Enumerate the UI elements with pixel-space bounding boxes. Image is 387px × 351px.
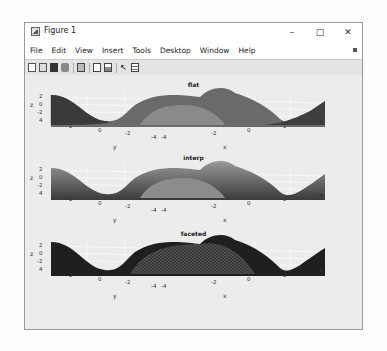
surface-plot <box>25 77 362 155</box>
axes-faceted[interactable]: faceted 2 0 -2 z 4 2 0 -2 -4 -4 -2 0 2 4… <box>25 230 362 308</box>
menu-tools[interactable]: Tools <box>132 46 150 55</box>
menu-file[interactable]: File <box>30 46 43 55</box>
toolbar-separator <box>73 63 74 73</box>
menu-window[interactable]: Window <box>200 46 230 55</box>
matlab-figure-icon <box>31 27 40 36</box>
axes-interp[interactable]: interp 2 0 -2 z 4 2 0 -2 -4 -4 -2 0 2 4 … <box>25 154 362 232</box>
toolbar-dock-arrow-icon[interactable] <box>353 48 357 52</box>
new-figure-icon[interactable] <box>28 63 36 72</box>
menu-edit[interactable]: Edit <box>52 46 67 55</box>
toolbar-separator <box>89 63 90 73</box>
open-file-icon[interactable] <box>39 63 47 72</box>
insert-colorbar-icon[interactable] <box>104 63 112 72</box>
surface-plot <box>25 230 362 308</box>
menu-bar: File Edit View Insert Tools Desktop Wind… <box>25 41 362 59</box>
figure-toolbar: ↖ <box>25 59 362 76</box>
menu-help[interactable]: Help <box>238 46 255 55</box>
link-plot-icon[interactable] <box>93 63 101 72</box>
menu-desktop[interactable]: Desktop <box>160 46 191 55</box>
save-icon[interactable] <box>50 63 58 72</box>
plot-area: flat 2 0 -2 z 4 2 0 -2 -4 -4 -2 0 2 4 <box>25 75 362 329</box>
maximize-button[interactable]: □ <box>311 25 329 39</box>
print-preview-icon[interactable] <box>77 63 85 72</box>
title-bar[interactable]: Figure 1 – □ ✕ <box>25 23 362 41</box>
minimize-button[interactable]: – <box>283 25 301 39</box>
toolbar-separator <box>116 63 117 73</box>
surface-plot <box>25 154 362 232</box>
property-inspector-icon[interactable] <box>131 63 139 72</box>
figure-window: Figure 1 – □ ✕ File Edit View Insert Too… <box>24 22 363 330</box>
edit-plot-icon[interactable]: ↖ <box>120 63 128 72</box>
axes-flat[interactable]: flat 2 0 -2 z 4 2 0 -2 -4 -4 -2 0 2 4 <box>25 77 362 155</box>
menu-view[interactable]: View <box>75 46 93 55</box>
menu-insert[interactable]: Insert <box>102 46 124 55</box>
close-button[interactable]: ✕ <box>339 25 357 39</box>
window-title: Figure 1 <box>44 26 76 35</box>
print-icon[interactable] <box>61 63 69 72</box>
